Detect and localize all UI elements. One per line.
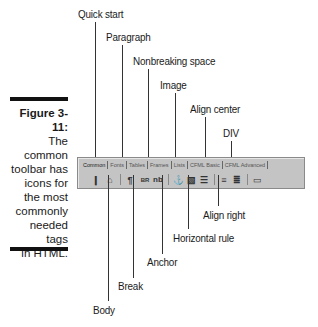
caption-line: the most xyxy=(6,190,68,204)
callout-body: Body xyxy=(93,304,115,317)
callout-anchor: Anchor xyxy=(147,256,177,269)
figure-caption: Figure 3-11: The common toolbar has icon… xyxy=(6,106,68,260)
callout-div: DIV xyxy=(223,127,239,140)
quick-start-icon[interactable]: ❙ xyxy=(90,174,102,186)
callout-align-center: Align center xyxy=(190,103,240,116)
caption-line: The xyxy=(6,134,68,148)
tab-cfml-advanced[interactable]: CFML Advanced xyxy=(223,161,268,169)
leader-paragraph xyxy=(122,45,123,172)
toolbar-separator xyxy=(120,174,121,185)
break-icon[interactable]: BR xyxy=(139,174,151,186)
paragraph-icon[interactable]: ¶ xyxy=(124,174,136,186)
tab-fonts[interactable]: Fonts xyxy=(108,161,127,169)
caption-line: commonly xyxy=(6,204,68,218)
caption-line: common xyxy=(6,148,68,162)
leader-body xyxy=(108,175,109,301)
callout-quick-start: Quick start xyxy=(78,8,123,21)
caption-line: icons for xyxy=(6,176,68,190)
caption-bottom-rule xyxy=(10,247,68,251)
anchor-icon[interactable]: ⚓ xyxy=(172,174,184,186)
align-center-icon[interactable]: ≡ xyxy=(218,174,230,186)
callout-horizontal-rule: Horizontal rule xyxy=(173,232,234,245)
toolbar-tabs: Common Fonts Tables Frames Lists CFML Ba… xyxy=(81,160,268,170)
figure-number: Figure 3-11: xyxy=(6,106,68,134)
caption-top-rule xyxy=(10,97,68,101)
leader-horizontal-rule xyxy=(188,175,189,229)
image-icon[interactable]: ▧ xyxy=(185,174,197,186)
leader-break xyxy=(133,175,134,278)
callout-align-right: Align right xyxy=(203,209,245,222)
tab-lists[interactable]: Lists xyxy=(172,161,188,169)
leader-quick-start xyxy=(95,22,96,172)
callout-break: Break xyxy=(118,280,143,293)
tab-common[interactable]: Common xyxy=(81,161,108,169)
align-right-icon[interactable]: ≣ xyxy=(231,174,243,186)
tab-tables[interactable]: Tables xyxy=(127,161,148,169)
callout-image: Image xyxy=(160,79,187,92)
toolbar-separator xyxy=(168,174,169,185)
horizontal-rule-icon[interactable]: ☰ xyxy=(198,174,210,186)
body-icon[interactable]: ⌂ xyxy=(104,174,116,186)
leader-anchor xyxy=(162,175,163,254)
div-icon[interactable]: ▭ xyxy=(251,174,263,186)
common-toolbar: Common Fonts Tables Frames Lists CFML Ba… xyxy=(77,157,305,189)
leader-align-right xyxy=(218,175,219,206)
toolbar-separator xyxy=(247,174,248,185)
tab-cfml-basic[interactable]: CFML Basic xyxy=(188,161,223,169)
callout-nonbreaking-space: Nonbreaking space xyxy=(133,55,215,68)
tab-frames[interactable]: Frames xyxy=(148,161,172,169)
callout-paragraph: Paragraph xyxy=(106,31,151,44)
caption-line: needed tags xyxy=(6,218,68,246)
toolbar-icons: ❙ ⌂ ¶ BR nb ⚓ ▧ ☰ ≡ ≣ ▭ xyxy=(84,173,264,186)
toolbar-separator xyxy=(214,174,215,185)
caption-line: toolbar has xyxy=(6,162,68,176)
